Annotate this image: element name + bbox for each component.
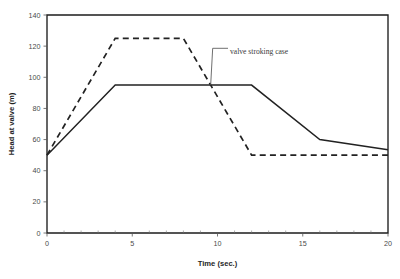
annotation-valve-stroking-case: valve stroking case xyxy=(230,47,289,56)
x-tick-label-20: 20 xyxy=(384,239,392,248)
y-tick-label-20: 20 xyxy=(33,197,41,206)
x-tick-label-15: 15 xyxy=(299,239,307,248)
y-tick-label-40: 40 xyxy=(33,166,41,175)
y-tick-label-100: 100 xyxy=(29,73,41,82)
y-axis-tick-labels: 0 20 40 60 80 100 120 140 xyxy=(29,11,41,238)
plot-border xyxy=(47,15,388,233)
x-axis-tick-labels: 0 5 10 15 20 xyxy=(45,239,392,248)
chart-figure: 0 20 40 60 80 100 120 140 xyxy=(0,0,400,279)
y-tick-label-120: 120 xyxy=(29,42,41,51)
x-tick-label-10: 10 xyxy=(214,239,222,248)
y-axis-title: Head at valve (m) xyxy=(7,92,16,155)
plot-frame xyxy=(47,15,388,233)
annotation-leader-line xyxy=(211,48,228,85)
series-line-rapid-closure xyxy=(47,38,388,155)
y-tick-label-80: 80 xyxy=(33,104,41,113)
line-chart: 0 20 40 60 80 100 120 140 xyxy=(0,0,400,279)
y-tick-label-140: 140 xyxy=(29,11,41,20)
x-tick-label-0: 0 xyxy=(45,239,49,248)
x-axis-title: Time (sec.) xyxy=(198,259,238,268)
y-tick-label-60: 60 xyxy=(33,135,41,144)
x-tick-label-5: 5 xyxy=(130,239,134,248)
y-tick-label-0: 0 xyxy=(37,229,41,238)
